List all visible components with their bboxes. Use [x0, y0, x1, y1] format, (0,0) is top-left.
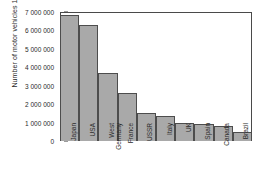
y-tick-label: 5 000 000 — [25, 45, 56, 52]
bar-slot — [175, 12, 194, 141]
x-tick-slot: France — [118, 143, 137, 187]
x-tick-label: Japan — [70, 123, 77, 165]
bar-slot — [156, 12, 175, 141]
x-tick-label: USA — [89, 123, 96, 165]
y-tick-label: 0 — [50, 138, 56, 145]
x-tick-slot: Italy — [156, 143, 175, 187]
x-tick-label: France — [127, 123, 134, 165]
x-tick-slot: USA — [79, 143, 98, 187]
y-tick-label: 6 000 000 — [25, 27, 56, 34]
y-tick-label: 1 000 000 — [25, 119, 56, 126]
bar-slot — [79, 12, 98, 141]
bar-slot — [194, 12, 213, 141]
x-tick-slot: USSR — [137, 143, 156, 187]
y-tick-label: 7 000 000 — [25, 9, 56, 16]
bar-slot — [98, 12, 117, 141]
x-tick-slot: Canada — [214, 143, 233, 187]
x-tick-label: UK — [185, 123, 192, 165]
bar-slot — [214, 12, 233, 141]
y-tick-label: 4 000 000 — [25, 64, 56, 71]
bar-slot — [233, 12, 252, 141]
x-axis-tick-labels: JapanUSAWest GermanyFranceUSSRItalyUKSpa… — [60, 143, 252, 187]
x-tick-slot: Brazil — [233, 143, 252, 187]
x-tick-label: USSR — [146, 123, 153, 165]
x-tick-label: Canada — [223, 123, 230, 165]
bar-slot — [137, 12, 156, 141]
y-tick-label: 3 000 000 — [25, 82, 56, 89]
x-tick-label: Brazil — [242, 123, 249, 165]
x-tick-label: Italy — [166, 123, 173, 165]
x-tick-label: Spain — [204, 123, 211, 165]
x-tick-slot: Japan — [60, 143, 79, 187]
bars-layer — [60, 12, 252, 141]
bar-slot — [60, 12, 79, 141]
y-axis-tick-labels: 01 000 0002 000 0003 000 0004 000 0005 0… — [8, 0, 56, 187]
x-tick-slot: West Germany — [98, 143, 117, 187]
x-tick-slot: UK — [175, 143, 194, 187]
bar-slot — [118, 12, 137, 141]
bar-chart: Number of motor vehicles 1981 01 000 000… — [0, 0, 264, 187]
y-tick-label: 2 000 000 — [25, 101, 56, 108]
x-tick-slot: Spain — [194, 143, 213, 187]
